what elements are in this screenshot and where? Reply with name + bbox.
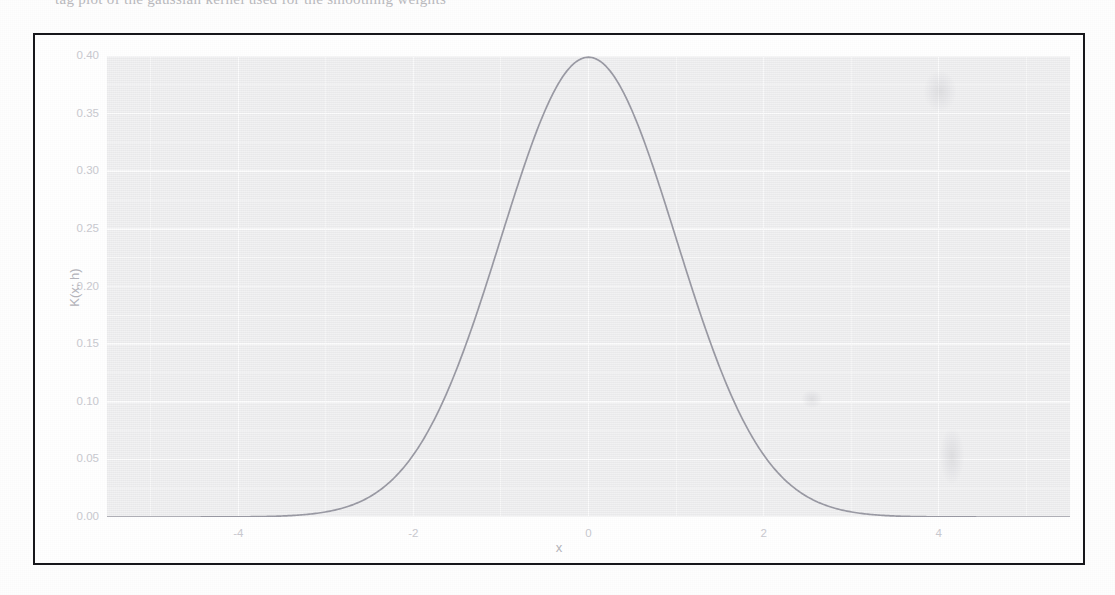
x-axis-tick-label: -2 xyxy=(393,527,433,539)
y-axis-tick-label: 0.00 xyxy=(51,510,99,522)
y-axis-tick-label: 0.40 xyxy=(51,49,99,61)
x-axis-tick-label: 0 xyxy=(569,527,609,539)
cut-off-caption-text: tag plot of the gaussian kernel used for… xyxy=(55,0,1055,7)
plot-panel xyxy=(107,56,1070,517)
y-axis-tick-label: 0.15 xyxy=(51,337,99,349)
x-axis-title: x xyxy=(35,540,1083,555)
y-axis-tick-label: 0.10 xyxy=(51,395,99,407)
scanned-page: tag plot of the gaussian kernel used for… xyxy=(0,0,1115,595)
y-axis-tick-label: 0.25 xyxy=(51,222,99,234)
y-axis-title: K(x; h) xyxy=(67,243,82,333)
y-axis-tick-label: 0.05 xyxy=(51,452,99,464)
figure-frame: 0.000.050.100.150.200.250.300.350.40 -4-… xyxy=(33,33,1085,565)
x-axis-tick-label: 2 xyxy=(744,527,784,539)
gaussian-kernel-curve xyxy=(107,57,1070,517)
kernel-curve-svg xyxy=(107,56,1070,517)
y-axis-tick-label: 0.30 xyxy=(51,164,99,176)
x-axis-tick-label: -4 xyxy=(218,527,258,539)
y-axis-tick-label: 0.35 xyxy=(51,107,99,119)
x-axis-tick-label: 4 xyxy=(919,527,959,539)
